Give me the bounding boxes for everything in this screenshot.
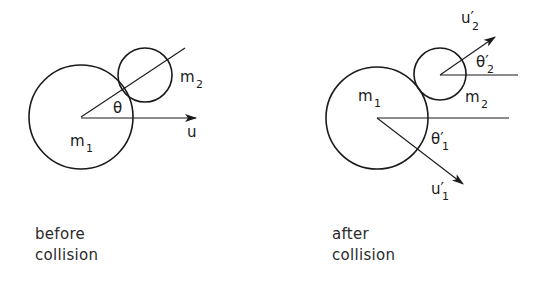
caption-line-1: before xyxy=(35,224,98,245)
m1-subscript: 1 xyxy=(86,142,93,155)
m2-subscript-after: 2 xyxy=(481,98,488,111)
theta2-prime-subscript: 2 xyxy=(487,63,494,76)
caption-line-2: collision xyxy=(332,245,395,266)
theta1-prime-subscript: 1 xyxy=(442,140,449,153)
before-collision-caption: before collision xyxy=(35,224,98,266)
m2-label-after: m xyxy=(465,88,480,106)
m1-label-after: m xyxy=(358,87,373,105)
velocity-u1-prime-arrow xyxy=(377,118,463,184)
m2-label: m xyxy=(180,68,195,86)
u1-prime-subscript: 1 xyxy=(442,190,449,203)
u-label: u xyxy=(187,123,197,141)
caption-line-2: collision xyxy=(35,245,98,266)
m2-subscript: 2 xyxy=(196,78,203,91)
mass-2-circle-after xyxy=(414,48,466,100)
after-collision-caption: after collision xyxy=(332,224,395,266)
m1-label: m xyxy=(70,132,85,150)
after-collision-panel: m 1 m 2 θ′ 2 θ′ 1 u′ 2 u′ 1 xyxy=(326,9,518,203)
line-of-centers xyxy=(81,48,185,117)
m1-subscript-after: 1 xyxy=(374,97,381,110)
before-collision-panel: θ u m 1 m 2 xyxy=(29,48,203,169)
u2-prime-subscript: 2 xyxy=(472,20,479,33)
theta-label: θ xyxy=(113,99,122,117)
caption-line-1: after xyxy=(332,224,395,245)
